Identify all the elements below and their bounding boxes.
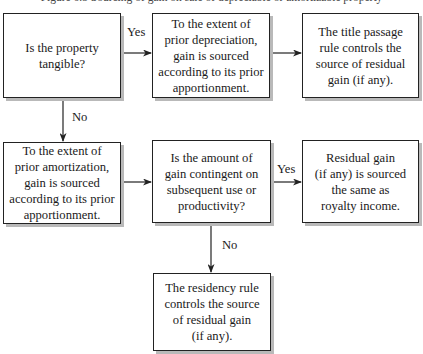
- node-title-passage-rule: The title passage rule controls the sour…: [302, 13, 419, 98]
- edge-label-yes-1: Yes: [127, 25, 145, 40]
- edge-label-no-1: No: [72, 110, 87, 125]
- node-text: Is the property tangible?: [25, 40, 98, 72]
- edge-label-yes-2: Yes: [277, 162, 295, 177]
- node-text: Residual gain (if any) is sourced the sa…: [315, 150, 406, 214]
- node-is-property-tangible: Is the property tangible?: [3, 13, 121, 98]
- node-prior-amortization: To the extent of prior amortization, gai…: [3, 142, 121, 224]
- node-text: To the extent of prior depreciation, gai…: [158, 16, 263, 96]
- node-text: To the extent of prior amortization, gai…: [9, 143, 114, 223]
- node-text: The residency rule controls the source o…: [164, 280, 259, 344]
- node-residency-rule: The residency rule controls the source o…: [153, 273, 271, 351]
- node-text: Is the amount of gain contingent on subs…: [165, 150, 259, 214]
- node-royalty-income: Residual gain (if any) is sourced the sa…: [302, 140, 419, 223]
- node-gain-contingent: Is the amount of gain contingent on subs…: [152, 140, 271, 223]
- edge-label-no-2: No: [222, 238, 237, 253]
- node-text: The title passage rule controls the sour…: [316, 24, 406, 88]
- node-prior-depreciation: To the extent of prior depreciation, gai…: [152, 13, 270, 98]
